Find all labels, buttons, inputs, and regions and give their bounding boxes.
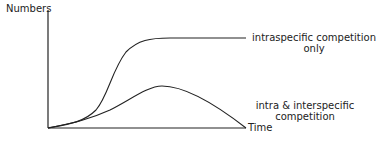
interspecific-label: intra & interspecific competition [252, 100, 358, 122]
x-axis-label: Time [248, 122, 272, 133]
intraspecific-label-line2: only [251, 43, 377, 54]
intraspecific-curve [48, 38, 246, 128]
y-axis-label: Numbers [6, 3, 51, 14]
intraspecific-label-line1: intraspecific competition [251, 32, 377, 43]
interspecific-label-line2: competition [252, 111, 358, 122]
intraspecific-label: intraspecific competition only [251, 32, 377, 54]
interspecific-curve [48, 86, 246, 128]
interspecific-label-line1: intra & interspecific [252, 100, 358, 111]
